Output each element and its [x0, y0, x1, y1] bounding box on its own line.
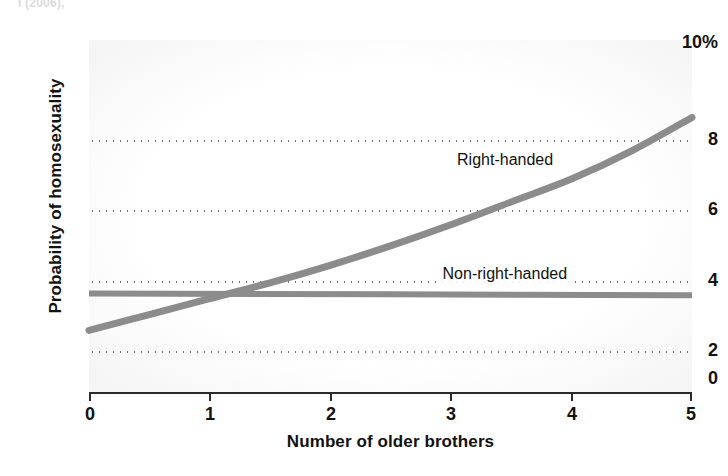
series-layer [89, 40, 692, 392]
y-axis-title: Probability of homosexuality [46, 36, 66, 356]
x-tick-3 [450, 392, 452, 401]
y-tick-label-4: 4 [644, 270, 728, 291]
x-tick-label-5: 5 [671, 404, 711, 425]
clipped-caption-text: l (2006), [18, 0, 65, 10]
x-tick-1 [209, 392, 211, 401]
series-line-non-right-handed [89, 293, 692, 295]
chart-figure: l (2006), Right-handed Non-right-handed … [0, 0, 728, 476]
x-tick-0 [89, 392, 91, 401]
y-tick-label-2: 2 [644, 340, 728, 361]
series-label-non-right-handed: Non-right-handed [439, 264, 572, 284]
x-tick-label-2: 2 [311, 404, 351, 425]
x-axis-title: Number of older brothers [89, 432, 692, 452]
y-tick-label-6: 6 [644, 199, 728, 220]
series-label-right-handed: Right-handed [453, 150, 557, 170]
x-tick-label-3: 3 [431, 404, 471, 425]
y-tick-label-8: 8 [644, 129, 728, 150]
x-axis-line [89, 392, 692, 394]
series-line-right-handed-smooth [89, 117, 692, 330]
x-tick-4 [571, 392, 573, 401]
y-tick-label-0: 0 [644, 368, 728, 389]
x-tick-label-1: 1 [190, 404, 230, 425]
x-tick-label-0: 0 [70, 404, 110, 425]
x-tick-label-4: 4 [552, 404, 592, 425]
y-tick-label-10: 10% [644, 32, 728, 53]
x-tick-5 [690, 392, 692, 401]
x-tick-2 [330, 392, 332, 401]
